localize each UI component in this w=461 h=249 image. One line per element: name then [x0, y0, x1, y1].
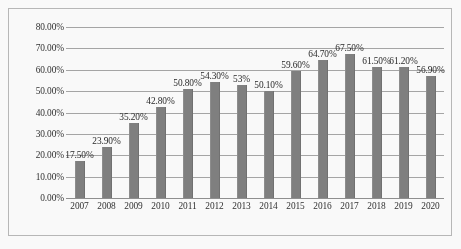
bar-value-label: 50.10% [254, 80, 282, 90]
x-axis-tick-label: 2018 [367, 201, 385, 211]
bar-value-label: 64.70% [308, 49, 336, 59]
x-axis-tick-label: 2007 [70, 201, 88, 211]
x-axis-tick-label: 2016 [313, 201, 331, 211]
x-axis-tick-label: 2010 [151, 201, 169, 211]
y-axis-tick-label: 50.00% [36, 86, 64, 96]
x-axis-tick-label: 2013 [232, 201, 250, 211]
y-axis-tick-label: 40.00% [36, 108, 64, 118]
bar-group: 50.10% [255, 27, 282, 198]
bar [318, 60, 328, 198]
bar-value-label: 53% [233, 74, 250, 84]
bar [237, 85, 247, 198]
x-axis-tick-label: 2014 [259, 201, 277, 211]
bar-group: 61.50% [363, 27, 390, 198]
bar-value-label: 56.90% [416, 65, 444, 75]
bar-group: 64.70% [309, 27, 336, 198]
bar-group: 50.80% [174, 27, 201, 198]
x-axis-tick-label: 2011 [178, 201, 196, 211]
bar-series: 17.50%23.90%35.20%42.80%50.80%54.30%53%5… [66, 27, 444, 198]
bar-group: 61.20% [390, 27, 417, 198]
y-axis-tick-label: 60.00% [36, 65, 64, 75]
bar [102, 147, 112, 198]
axis-baseline [66, 198, 444, 199]
y-axis-tick-label: 0.00% [40, 193, 64, 203]
bar-group: 67.50% [336, 27, 363, 198]
bar-group: 59.60% [282, 27, 309, 198]
bar-group: 53% [228, 27, 255, 198]
x-axis-tick-label: 2012 [205, 201, 223, 211]
y-axis-tick-label: 70.00% [36, 43, 64, 53]
x-axis: 2007200820092010201120122013201420152016… [66, 201, 444, 219]
bar-value-label: 61.20% [389, 56, 417, 66]
bar-group: 54.30% [201, 27, 228, 198]
bar [345, 54, 355, 198]
x-axis-tick-label: 2008 [97, 201, 115, 211]
bar [291, 71, 301, 198]
bar [75, 161, 85, 198]
y-axis-tick-label: 80.00% [36, 22, 64, 32]
bar-group: 17.50% [66, 27, 93, 198]
x-axis-tick-label: 2009 [124, 201, 142, 211]
bar-group: 23.90% [93, 27, 120, 198]
bar-value-label: 23.90% [92, 136, 120, 146]
bar [156, 107, 166, 198]
bar [399, 67, 409, 198]
y-axis-tick-label: 10.00% [36, 172, 64, 182]
bar-group: 35.20% [120, 27, 147, 198]
y-axis-tick-label: 20.00% [36, 150, 64, 160]
bar-value-label: 17.50% [65, 150, 93, 160]
bar-value-label: 42.80% [146, 96, 174, 106]
plot-area: 17.50%23.90%35.20%42.80%50.80%54.30%53%5… [66, 27, 444, 198]
x-axis-tick-label: 2019 [394, 201, 412, 211]
bar-value-label: 59.60% [281, 60, 309, 70]
y-axis-tick-label: 30.00% [36, 129, 64, 139]
bar-group: 56.90% [417, 27, 444, 198]
bar [264, 91, 274, 198]
bar-value-label: 67.50% [335, 43, 363, 53]
bar-value-label: 35.20% [119, 112, 147, 122]
bar [183, 89, 193, 198]
chart-frame: 0.00%10.00%20.00%30.00%40.00%50.00%60.00… [8, 8, 452, 236]
bar-value-label: 54.30% [200, 71, 228, 81]
bar [210, 82, 220, 198]
bar-group: 42.80% [147, 27, 174, 198]
bar [372, 67, 382, 198]
bar-value-label: 50.80% [173, 78, 201, 88]
y-axis: 0.00%10.00%20.00%30.00%40.00%50.00%60.00… [17, 27, 64, 198]
bar-value-label: 61.50% [362, 56, 390, 66]
bar [426, 76, 436, 198]
x-axis-tick-label: 2017 [340, 201, 358, 211]
x-axis-tick-label: 2015 [286, 201, 304, 211]
x-axis-tick-label: 2020 [421, 201, 439, 211]
bar [129, 123, 139, 198]
